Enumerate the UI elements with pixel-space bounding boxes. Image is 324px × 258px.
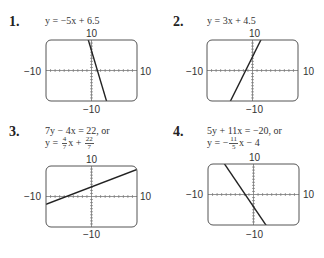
graph-1 [45,39,138,102]
frac-den: 7 [62,144,68,151]
graph-3-xmax-label: 10 [140,191,151,202]
problem-4-equation-line1: 5y + 11x = −20, or [207,125,282,136]
graph-1-xmax-label: 10 [140,66,151,77]
graph-4-ymax-label: 10 [249,152,260,163]
problem-3-equation-line1: 7y − 4x = 22, or [45,125,110,136]
frac-den: 5 [229,144,238,151]
fraction-4-7: 47 [62,136,68,151]
problem-3-number: 3. [9,124,20,140]
graph-4 [207,163,300,226]
graph-3-ymin-label: −10 [83,229,100,240]
frac-den: 7 [85,144,94,151]
graph-1-ymin-label: −10 [83,104,100,115]
eq4-mid: x − 4 [239,137,260,148]
graph-4-ymin-label: −10 [246,229,263,240]
problem-2-equation: y = 3x + 4.5 [207,15,256,26]
graph-2 [206,39,299,102]
problem-1-number: 1. [9,14,20,30]
graph-4-xmin-label: −10 [186,189,203,200]
fraction-22-7: 227 [85,136,94,151]
graph-3-xmin-label: −10 [24,191,41,202]
graph-1-xmin-label: −10 [24,66,41,77]
problem-2-number: 2. [173,14,184,30]
eq3-prefix: y = [45,137,61,148]
graph-2-xmin-label: −10 [186,66,203,77]
graph-2-ymax-label: 10 [249,28,260,39]
graph-3 [45,165,138,228]
fraction-11-5: 115 [229,136,238,151]
graph-2-ymin-label: −10 [246,104,263,115]
graph-4-xmax-label: 10 [303,189,314,200]
problem-4-number: 4. [173,124,184,140]
eq4-prefix: y = − [207,137,228,148]
graph-3-ymax-label: 10 [86,154,97,165]
graph-1-ymax-label: 10 [86,28,97,39]
graph-2-xmax-label: 10 [303,66,314,77]
eq3-mid: x + [68,137,84,148]
problem-1-equation: y = −5x + 6.5 [45,15,99,26]
problem-3-equation-line2: y = 47x + 227 [45,136,95,151]
problem-4-equation-line2: y = −115x − 4 [207,136,260,151]
